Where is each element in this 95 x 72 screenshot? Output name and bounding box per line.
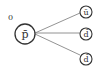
child-label-d2: d̄ [83,54,89,64]
charge-label: 0 [8,13,13,22]
edge-d2 [35,34,80,55]
edge-u [35,13,80,33]
particle-diagram: 0 p̄ ū d̄ d̄ [0,0,95,72]
child-label-d1: d̄ [83,29,89,39]
child-node-d1: d̄ [80,28,92,40]
child-node-u: ū [80,6,92,18]
child-label-u: ū [83,8,88,17]
parent-node: p̄ [15,24,35,44]
child-node-d2: d̄ [80,53,92,65]
parent-label: p̄ [21,28,28,41]
